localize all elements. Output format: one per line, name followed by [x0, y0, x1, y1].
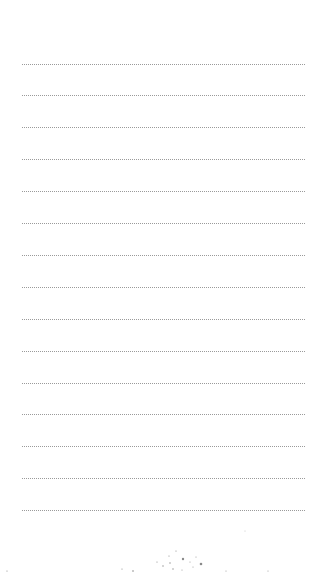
ruled-line [22, 383, 305, 384]
speckle [168, 555, 169, 556]
ruled-line [22, 159, 305, 160]
speckle [226, 571, 227, 572]
ruled-line [22, 287, 305, 288]
speckle [169, 562, 170, 563]
ruled-line [22, 191, 305, 192]
ruled-line [22, 319, 305, 320]
ruled-line [22, 223, 305, 224]
speckle [182, 570, 183, 571]
ruled-line [22, 446, 305, 447]
ruled-line [22, 64, 305, 65]
speckle [162, 565, 163, 566]
speckle [172, 568, 173, 569]
notepad-page [0, 0, 326, 572]
ruled-line [22, 255, 305, 256]
speckle [196, 557, 197, 558]
speckle [6, 570, 7, 571]
ruled-line [22, 127, 305, 128]
speckle [121, 568, 122, 569]
ruled-line [22, 351, 305, 352]
ruled-line [22, 414, 305, 415]
speckle [190, 562, 191, 563]
speckle [245, 531, 246, 532]
speckle [182, 558, 184, 560]
speckle [193, 567, 194, 568]
speckle [156, 561, 157, 562]
ruled-line [22, 510, 305, 511]
ruled-line [22, 478, 305, 479]
ruled-line [22, 95, 305, 96]
paper-speckles [0, 0, 326, 572]
speckle [268, 571, 269, 572]
speckle [200, 563, 203, 566]
speckle [175, 550, 176, 551]
